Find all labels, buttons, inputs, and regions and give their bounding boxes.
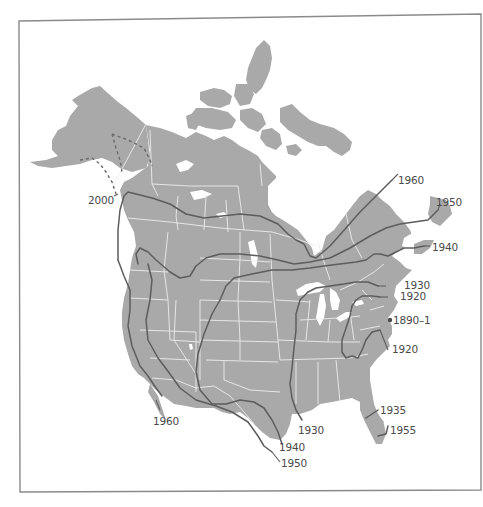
arctic-islands-small bbox=[240, 108, 266, 132]
label-1930-south: 1930 bbox=[298, 424, 324, 436]
label-2000: 2000 bbox=[88, 194, 114, 206]
landmass bbox=[30, 40, 452, 444]
label-1920-south: 1920 bbox=[392, 343, 418, 355]
label-1890-1: 1890–1 bbox=[393, 314, 430, 326]
southampton-island bbox=[286, 144, 302, 156]
label-1940-north: 1940 bbox=[432, 241, 458, 253]
label-1940-south: 1940 bbox=[279, 441, 305, 453]
arctic-archipelago-1 bbox=[200, 88, 232, 108]
range-expansion-map: 2000 1960 1950 1940 1930 1920 1890–1 192… bbox=[0, 0, 483, 507]
alaska bbox=[30, 86, 150, 172]
label-1960-west: 1960 bbox=[153, 415, 179, 427]
label-1935: 1935 bbox=[380, 404, 406, 416]
ellesmere-island bbox=[246, 40, 272, 94]
label-1920-north: 1920 bbox=[400, 290, 426, 302]
boothia bbox=[260, 128, 282, 150]
origin-marker-new-york bbox=[388, 318, 392, 322]
label-1955: 1955 bbox=[390, 424, 416, 436]
label-1950-south: 1950 bbox=[281, 457, 307, 469]
label-1950-north: 1950 bbox=[436, 196, 462, 208]
label-1960-north: 1960 bbox=[398, 174, 424, 186]
